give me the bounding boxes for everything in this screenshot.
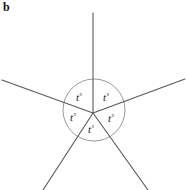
angle-label-top-left: t° bbox=[76, 91, 83, 103]
angle-label-right: t° bbox=[108, 112, 115, 124]
figure-container: b t°t°t°t°t° bbox=[0, 0, 187, 190]
ray-group bbox=[2, 13, 185, 190]
ray-lower-right bbox=[93, 113, 148, 190]
angles-at-a-point-diagram: t°t°t°t°t° bbox=[0, 0, 187, 190]
ray-lower-left bbox=[43, 113, 93, 190]
angle-label-top-right: t° bbox=[103, 91, 110, 103]
angle-label-left: t° bbox=[70, 111, 77, 123]
angle-label-bottom: t° bbox=[88, 123, 95, 135]
